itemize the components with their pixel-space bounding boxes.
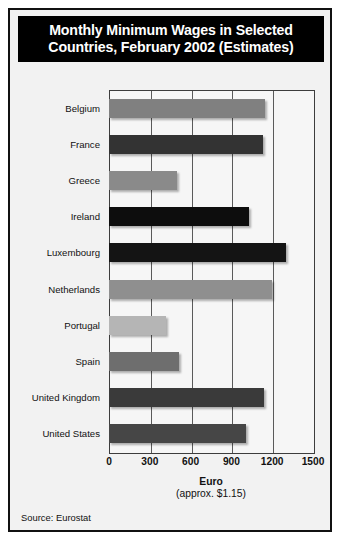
- x-tick-label-1500: 1500: [302, 456, 325, 467]
- category-label-spain: Spain: [14, 343, 105, 379]
- x-tick-label-900: 900: [223, 456, 240, 467]
- category-labels: BelgiumFranceGreeceIrelandLuxembourgNeth…: [14, 90, 105, 452]
- category-label-belgium: Belgium: [14, 90, 105, 126]
- category-label-united-kingdom: United Kingdom: [14, 380, 105, 416]
- bar-row: [109, 126, 313, 162]
- bar-netherlands: [109, 280, 272, 299]
- bar-row: [109, 199, 313, 235]
- bar-luxembourg: [109, 243, 286, 262]
- bar-row: [109, 380, 313, 416]
- chart-title-banner: Monthly Minimum Wages in Selected Countr…: [18, 16, 324, 62]
- x-axis-title-main: Euro: [109, 476, 313, 487]
- source-note: Source: Eurostat: [21, 512, 91, 523]
- bar-united-kingdom: [109, 388, 264, 407]
- x-axis-ticks: 030060090012001500: [109, 456, 313, 472]
- category-label-united-states: United States: [14, 416, 105, 452]
- category-label-luxembourg: Luxembourg: [14, 235, 105, 271]
- x-axis-title-sub: (approx. $1.15): [109, 488, 313, 499]
- x-axis-title: Euro (approx. $1.15): [109, 476, 313, 499]
- bar-belgium: [109, 99, 265, 118]
- bar-row: [109, 90, 313, 126]
- x-tick-label-600: 600: [182, 456, 199, 467]
- category-label-greece: Greece: [14, 162, 105, 198]
- x-tick-label-1200: 1200: [261, 456, 284, 467]
- bar-row: [109, 416, 313, 452]
- x-tick-label-0: 0: [106, 456, 112, 467]
- bar-row: [109, 307, 313, 343]
- page-title: Monthly Minimum Wages in Selected Countr…: [42, 22, 299, 57]
- bar-ireland: [109, 207, 249, 226]
- x-tick-label-300: 300: [141, 456, 158, 467]
- category-label-ireland: Ireland: [14, 199, 105, 235]
- bar-row: [109, 235, 313, 271]
- bar-row: [109, 343, 313, 379]
- bars-container: [109, 90, 313, 452]
- category-label-netherlands: Netherlands: [14, 271, 105, 307]
- bar-row: [109, 162, 313, 198]
- bar-portugal: [109, 316, 166, 335]
- category-label-portugal: Portugal: [14, 307, 105, 343]
- category-label-france: France: [14, 126, 105, 162]
- bar-france: [109, 135, 263, 154]
- bar-spain: [109, 352, 179, 371]
- bar-united-states: [109, 424, 246, 443]
- bar-row: [109, 271, 313, 307]
- bar-greece: [109, 171, 177, 190]
- chart-figure: Monthly Minimum Wages in Selected Countr…: [8, 8, 332, 532]
